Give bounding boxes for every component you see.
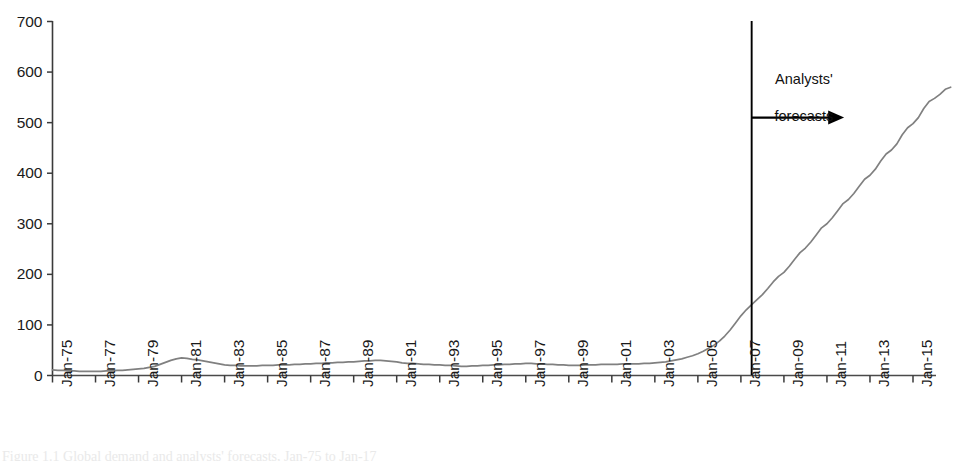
annotation-line-1: Analysts' bbox=[741, 70, 867, 89]
x-tick-label: Jan-95 bbox=[489, 339, 505, 386]
x-tick-label: Jan-85 bbox=[274, 339, 290, 386]
y-tick-label: 0 bbox=[34, 368, 43, 384]
x-tick-label: Jan-01 bbox=[618, 339, 634, 386]
x-tick-label: Jan-87 bbox=[317, 339, 333, 386]
x-tick-label: Jan-93 bbox=[446, 339, 462, 386]
x-tick-label: Jan-75 bbox=[59, 339, 75, 386]
x-tick-label: Jan-13 bbox=[876, 339, 892, 386]
y-tick-label: 400 bbox=[17, 165, 43, 181]
y-tick-label: 500 bbox=[17, 115, 43, 131]
y-tick-label: 700 bbox=[17, 14, 43, 30]
x-tick-label: Jan-97 bbox=[532, 339, 548, 386]
figure-canvas: 0100200300400500600700 Jan-75Jan-77Jan-7… bbox=[0, 0, 957, 461]
y-tick-label: 100 bbox=[17, 317, 43, 333]
y-tick-label: 200 bbox=[17, 266, 43, 282]
x-tick-label: Jan-99 bbox=[575, 339, 591, 386]
x-tick-label: Jan-77 bbox=[102, 339, 118, 386]
x-tick-label: Jan-07 bbox=[747, 339, 763, 386]
x-axis-ticks bbox=[53, 376, 914, 383]
annotation-line-2: forecasts bbox=[741, 107, 867, 126]
x-tick-label: Jan-89 bbox=[360, 339, 376, 386]
y-axis-ticks bbox=[47, 22, 53, 376]
x-tick-label: Jan-81 bbox=[188, 339, 204, 386]
x-tick-label: Jan-83 bbox=[231, 339, 247, 386]
x-tick-label: Jan-91 bbox=[403, 339, 419, 386]
x-tick-label: Jan-11 bbox=[833, 340, 849, 386]
y-tick-label: 300 bbox=[17, 216, 43, 232]
x-tick-label: Jan-05 bbox=[704, 339, 720, 386]
forecast-annotation-label: Analysts' forecasts bbox=[741, 52, 867, 145]
x-tick-label: Jan-03 bbox=[661, 339, 677, 386]
x-tick-label: Jan-09 bbox=[790, 339, 806, 386]
x-tick-label: Jan-15 bbox=[919, 339, 935, 386]
x-tick-label: Jan-79 bbox=[145, 339, 161, 386]
figure-caption: Figure 1.1 Global demand and analysts' f… bbox=[2, 450, 702, 461]
y-tick-label: 600 bbox=[17, 64, 43, 80]
line-chart-figure: 0100200300400500600700 Jan-75Jan-77Jan-7… bbox=[0, 0, 957, 461]
